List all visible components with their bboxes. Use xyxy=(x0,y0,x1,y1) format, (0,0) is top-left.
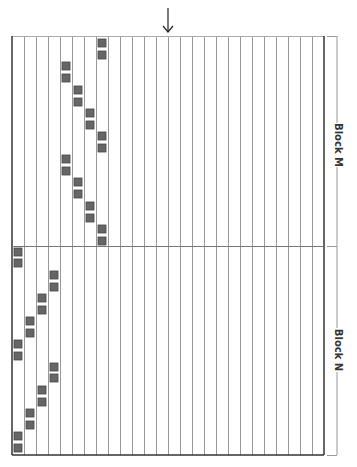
marker-square xyxy=(62,167,70,175)
marker-square xyxy=(98,39,106,47)
marker-square xyxy=(14,340,22,348)
marker-square xyxy=(50,283,58,291)
down-arrow-icon xyxy=(163,8,173,32)
marker-square xyxy=(98,144,106,152)
marker-square xyxy=(38,398,46,406)
marker-square xyxy=(98,237,106,245)
marker-square xyxy=(50,363,58,371)
marker-square xyxy=(86,121,94,129)
marker-square xyxy=(14,352,22,360)
marker-square xyxy=(62,155,70,163)
marker-square xyxy=(62,74,70,82)
marker-square xyxy=(74,178,82,186)
marker-square xyxy=(14,259,22,267)
marker-square xyxy=(74,86,82,94)
marker-square xyxy=(50,271,58,279)
marker-square xyxy=(50,374,58,382)
marker-square xyxy=(38,306,46,314)
block-brackets xyxy=(327,36,337,456)
block-label-m: Block M xyxy=(333,123,344,167)
marker-square xyxy=(98,225,106,233)
grid-diagram: Block MBlock N xyxy=(0,0,357,467)
marker-square xyxy=(14,432,22,440)
column-lines xyxy=(25,36,313,455)
marker-square xyxy=(26,317,34,325)
marker-square xyxy=(26,329,34,337)
marker-square xyxy=(86,214,94,222)
marker-square xyxy=(14,444,22,452)
marker-square xyxy=(38,386,46,394)
marker-square xyxy=(38,294,46,302)
marker-square xyxy=(14,248,22,256)
marker-square xyxy=(86,202,94,210)
block-label-n: Block N xyxy=(333,329,344,371)
marker-square xyxy=(26,421,34,429)
marker-square xyxy=(74,190,82,198)
marker-square xyxy=(74,98,82,106)
marker-square xyxy=(26,409,34,417)
marker-square xyxy=(98,51,106,59)
marker-square xyxy=(86,109,94,117)
marker-square xyxy=(98,132,106,140)
marker-square xyxy=(62,62,70,70)
